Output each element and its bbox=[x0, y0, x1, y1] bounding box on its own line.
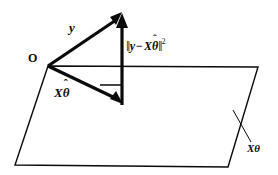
projection-label-theta-hat: ˆθ bbox=[63, 86, 70, 99]
residual-minus-sign: − bbox=[135, 39, 144, 53]
vector-y-label: y bbox=[69, 21, 75, 34]
residual-exponent: 2 bbox=[162, 37, 166, 46]
residual-X: X bbox=[144, 39, 152, 53]
origin-label: O bbox=[28, 52, 37, 64]
plane-label-leader-line bbox=[233, 110, 251, 142]
vector-y-shaft bbox=[48, 20, 116, 66]
vector-projection-label: Xˆθ bbox=[54, 86, 69, 99]
plane-label: Xθ bbox=[247, 143, 260, 154]
residual-norm-label: ‖y−Xˆθ‖2 bbox=[126, 38, 166, 53]
residual-open-bar: ‖ bbox=[126, 38, 130, 54]
projection-diagram: O y Xˆθ Xθ ‖y−Xˆθ‖2 bbox=[0, 0, 278, 175]
projection-label-X: X bbox=[54, 85, 63, 100]
projection-hat-mark: ˆ bbox=[64, 79, 68, 91]
plane-label-theta: θ bbox=[254, 142, 260, 154]
diagram-canvas bbox=[0, 0, 278, 175]
residual-hat-mark: ˆ bbox=[153, 33, 157, 44]
column-space-plane bbox=[15, 66, 258, 167]
